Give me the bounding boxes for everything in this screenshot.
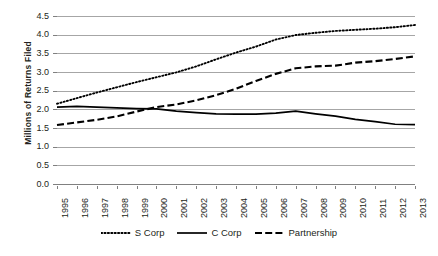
- x-tick-mark: [196, 186, 197, 189]
- x-tick-label: 2005: [260, 198, 269, 218]
- y-axis-tick-labels: 0.00.51.01.52.02.53.03.54.04.5: [0, 0, 57, 200]
- y-tick-label: 3.5: [9, 49, 49, 58]
- x-tick-mark: [137, 186, 138, 189]
- x-tick-label: 2010: [359, 198, 368, 218]
- x-tick-mark: [415, 186, 416, 189]
- y-tick-label: 2.5: [9, 86, 49, 95]
- x-tick-label: 2003: [220, 198, 229, 218]
- y-tick-label: 2.0: [9, 105, 49, 114]
- gridline: [57, 184, 415, 185]
- chart-legend: S CorpC CorpPartnership: [0, 228, 438, 238]
- legend-item-partnership[interactable]: Partnership: [255, 228, 338, 238]
- x-tick-label: 2009: [339, 198, 348, 218]
- x-tick-label: 2008: [320, 198, 329, 218]
- x-tick-mark: [296, 186, 297, 189]
- x-tick-mark: [216, 186, 217, 189]
- x-tick-label: 1998: [121, 198, 130, 218]
- x-axis-tick-labels: 1995199619971998199920002001200220032004…: [57, 186, 415, 226]
- x-tick-label: 2002: [200, 198, 209, 218]
- x-tick-label: 2011: [379, 199, 388, 218]
- y-tick-label: 4.0: [9, 30, 49, 39]
- legend-swatch-dotted: [101, 228, 131, 238]
- x-tick-mark: [256, 186, 257, 189]
- legend-label: Partnership: [289, 228, 338, 238]
- x-tick-mark: [156, 186, 157, 189]
- x-tick-mark: [117, 186, 118, 189]
- legend-label: C Corp: [211, 228, 241, 238]
- plot-area: [57, 16, 415, 184]
- x-tick-mark: [276, 186, 277, 189]
- x-tick-label: 2007: [300, 198, 309, 218]
- legend-swatch-dashed: [255, 228, 285, 238]
- series-layer: [57, 16, 415, 184]
- y-tick-label: 1.5: [9, 124, 49, 133]
- x-tick-mark: [77, 186, 78, 189]
- x-tick-label: 2001: [180, 198, 189, 218]
- x-tick-label: 1999: [141, 198, 150, 218]
- x-tick-label: 1996: [81, 198, 90, 218]
- legend-label: S Corp: [135, 228, 165, 238]
- x-tick-mark: [316, 186, 317, 189]
- series-line-c-corp: [57, 106, 415, 124]
- x-tick-label: 2004: [240, 198, 249, 218]
- x-tick-mark: [395, 186, 396, 189]
- x-tick-mark: [236, 186, 237, 189]
- x-tick-mark: [57, 186, 58, 189]
- x-tick-mark: [375, 186, 376, 189]
- y-tick-label: 0.5: [9, 161, 49, 170]
- x-tick-label: 2013: [419, 198, 428, 218]
- series-line-s-corp: [57, 25, 415, 104]
- x-tick-label: 2012: [399, 198, 408, 218]
- legend-swatch-solid: [177, 228, 207, 238]
- y-tick-label: 0.0: [9, 180, 49, 189]
- x-tick-mark: [97, 186, 98, 189]
- x-tick-label: 2006: [280, 198, 289, 218]
- x-tick-label: 1995: [61, 198, 70, 218]
- y-tick-label: 4.5: [9, 12, 49, 21]
- x-tick-label: 2000: [160, 198, 169, 218]
- x-tick-mark: [176, 186, 177, 189]
- y-tick-label: 3.0: [9, 68, 49, 77]
- x-tick-mark: [335, 186, 336, 189]
- x-tick-label: 1997: [101, 198, 110, 218]
- legend-item-c-corp[interactable]: C Corp: [177, 228, 241, 238]
- line-chart: Millions of Returns Filed 0.00.51.01.52.…: [0, 0, 438, 256]
- legend-item-s-corp[interactable]: S Corp: [101, 228, 165, 238]
- x-tick-mark: [355, 186, 356, 189]
- y-tick-label: 1.0: [9, 142, 49, 151]
